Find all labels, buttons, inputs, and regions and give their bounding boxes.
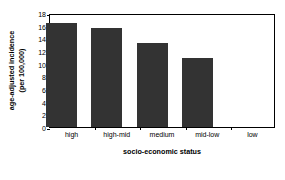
y-axis-tick-label: 12: [38, 49, 46, 56]
x-axis-tick-label-high-mid: high-mid: [103, 130, 130, 139]
bar-chart-figure: age-adjusted incidence (per 100,000) 024…: [0, 0, 285, 180]
y-axis-tick-label: 18: [38, 11, 46, 18]
bar-mid-low: [182, 58, 213, 127]
bar-high: [46, 23, 77, 128]
x-axis-tick-label-mid-low: mid-low: [195, 130, 219, 139]
y-axis-tick-label: 10: [38, 61, 46, 68]
bar-high-mid: [91, 28, 122, 127]
x-axis-title: socio-economic status: [49, 147, 275, 156]
x-axis-tick-labels: highhigh-midmediummid-lowlow: [49, 130, 275, 142]
y-axis-title: age-adjusted incidence (per 100,000): [0, 0, 34, 140]
y-axis-tick-label: 14: [38, 36, 46, 43]
plot-area: [49, 14, 275, 128]
y-axis-title-line2: (per 100,000): [17, 30, 27, 109]
bar-medium: [137, 43, 168, 127]
y-axis-tick-label: 16: [38, 23, 46, 30]
y-axis-tick-labels: 024681012141618: [32, 14, 46, 128]
x-axis-tick-label-high: high: [65, 130, 78, 139]
y-axis-tick-mark: [47, 15, 50, 16]
plot-inner: [50, 15, 274, 127]
x-axis-tick-label-medium: medium: [150, 130, 175, 139]
y-axis-title-line1: age-adjusted incidence: [8, 30, 18, 109]
x-axis-tick-label-low: low: [247, 130, 258, 139]
